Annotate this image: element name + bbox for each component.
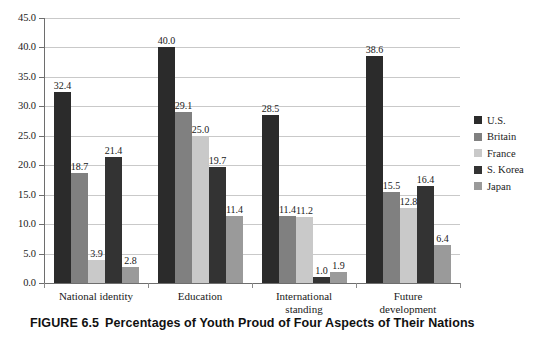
y-tick-label: 10.0	[0, 218, 36, 229]
y-tick-label: 5.0	[0, 248, 36, 259]
bar: 3.9	[88, 260, 105, 283]
x-tick-mark	[460, 283, 461, 288]
y-tick-label: 0.0	[0, 277, 36, 288]
legend-swatch-icon	[474, 116, 482, 124]
y-tick-mark	[39, 254, 45, 255]
y-tick-mark	[39, 165, 45, 166]
bar: 29.1	[175, 112, 192, 283]
bar-value-label: 16.4	[417, 174, 435, 185]
legend-label: U.S.	[487, 115, 506, 126]
x-tick-mark	[44, 283, 45, 288]
legend-swatch-icon	[474, 149, 482, 157]
bar: 32.4	[54, 92, 71, 283]
x-tick-mark	[148, 283, 149, 288]
bar: 19.7	[209, 167, 226, 283]
legend-swatch-icon	[474, 182, 482, 190]
legend-label: France	[487, 148, 516, 159]
legend-item: S. Korea	[474, 162, 542, 179]
bar: 6.4	[434, 245, 451, 283]
legend-item: U.S.	[474, 112, 542, 129]
legend-label: Britain	[487, 131, 516, 142]
bar: 21.4	[105, 157, 122, 283]
bar-value-label: 11.4	[226, 204, 243, 215]
y-tick-mark	[39, 77, 45, 78]
y-tick-mark	[39, 195, 45, 196]
bar: 11.2	[296, 217, 313, 283]
bar-value-label: 28.5	[262, 103, 280, 114]
bar-value-label: 40.0	[158, 35, 176, 46]
y-tick-mark	[39, 106, 45, 107]
y-tick-label: 45.0	[0, 12, 36, 23]
bar: 1.9	[330, 272, 347, 283]
bar-value-label: 32.4	[54, 80, 72, 91]
x-category-label: Education	[148, 290, 252, 303]
legend-swatch-icon	[474, 133, 482, 141]
x-category-label: Futuredevelopment	[356, 290, 460, 315]
x-category-label-line: standing	[252, 303, 356, 316]
y-tick-label: 35.0	[0, 71, 36, 82]
legend-swatch-icon	[474, 166, 482, 174]
bar-value-label: 18.7	[71, 161, 89, 172]
legend-item: Britain	[474, 129, 542, 146]
legend-label: S. Korea	[487, 164, 524, 175]
bar-value-label: 3.9	[90, 248, 103, 259]
bar-value-label: 1.0	[315, 265, 328, 276]
bar: 2.8	[122, 267, 139, 283]
x-category-label-line: Education	[148, 290, 252, 303]
y-tick-label: 20.0	[0, 159, 36, 170]
bar: 15.5	[383, 192, 400, 283]
bar-value-label: 11.4	[279, 204, 296, 215]
bar-value-label: 11.2	[296, 205, 313, 216]
y-tick-mark	[39, 136, 45, 137]
y-tick-label: 40.0	[0, 41, 36, 52]
bar: 28.5	[262, 115, 279, 283]
x-category-label-line: Future	[356, 290, 460, 303]
bar: 11.4	[226, 216, 243, 283]
figure-number: FIGURE 6.5	[30, 316, 99, 330]
figure-caption: FIGURE 6.5Percentages of Youth Proud of …	[30, 316, 530, 330]
legend-item: France	[474, 145, 542, 162]
y-tick-mark	[39, 18, 45, 19]
bar-value-label: 19.7	[209, 155, 227, 166]
bar-value-label: 29.1	[175, 100, 193, 111]
bar: 40.0	[158, 47, 175, 283]
bar-value-label: 1.9	[332, 260, 345, 271]
bar: 1.0	[313, 277, 330, 283]
bar: 11.4	[279, 216, 296, 283]
bar-value-label: 15.5	[383, 180, 401, 191]
x-category-label: National identity	[44, 290, 148, 303]
y-tick-label: 25.0	[0, 130, 36, 141]
bar: 25.0	[192, 136, 209, 283]
bar: 38.6	[366, 56, 383, 283]
bar-group: 32.418.73.921.42.8	[54, 18, 139, 283]
bar-group: 40.029.125.019.711.4	[158, 18, 243, 283]
x-category-label-line: International	[252, 290, 356, 303]
figure-container: 45.040.035.030.025.020.015.010.05.00.0 U…	[0, 0, 544, 340]
bar-value-label: 21.4	[105, 145, 123, 156]
bar-value-label: 38.6	[366, 44, 384, 55]
x-category-label-line: National identity	[44, 290, 148, 303]
legend-item: Japan	[474, 178, 542, 195]
y-tick-label: 30.0	[0, 100, 36, 111]
figure-title: Percentages of Youth Proud of Four Aspec…	[105, 316, 475, 330]
bar-value-label: 2.8	[124, 255, 137, 266]
bar-value-label: 12.8	[400, 196, 418, 207]
x-category-label: Internationalstanding	[252, 290, 356, 315]
bar-group: 38.615.512.816.46.4	[366, 18, 451, 283]
legend: U.S.BritainFranceS. KoreaJapan	[474, 112, 542, 195]
bar: 16.4	[417, 186, 434, 283]
bar-value-label: 6.4	[436, 233, 449, 244]
bar: 12.8	[400, 208, 417, 283]
bar-value-label: 25.0	[192, 124, 210, 135]
legend-label: Japan	[487, 181, 511, 192]
y-tick-label: 15.0	[0, 189, 36, 200]
x-tick-mark	[252, 283, 253, 288]
x-tick-mark	[356, 283, 357, 288]
y-tick-mark	[39, 224, 45, 225]
bar-group: 28.511.411.21.01.9	[262, 18, 347, 283]
x-category-label-line: development	[356, 303, 460, 316]
y-tick-mark	[39, 47, 45, 48]
bar: 18.7	[71, 173, 88, 283]
